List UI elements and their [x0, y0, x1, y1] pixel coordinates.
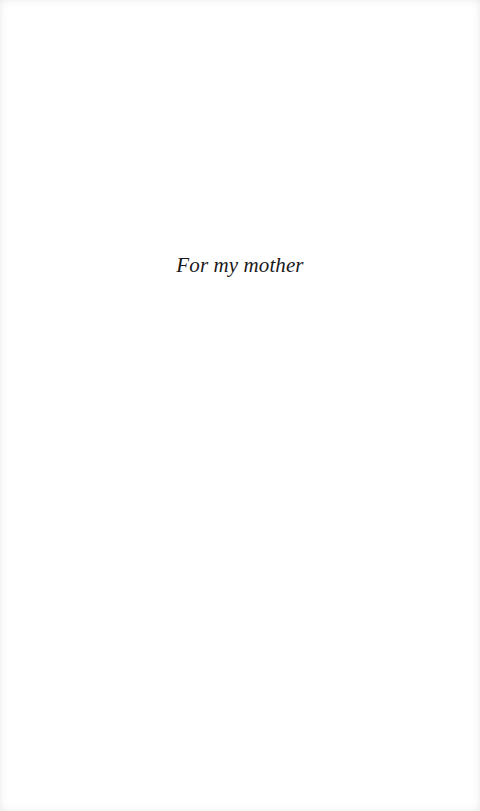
book-page: For my mother: [0, 0, 480, 811]
dedication-text: For my mother: [0, 252, 480, 278]
